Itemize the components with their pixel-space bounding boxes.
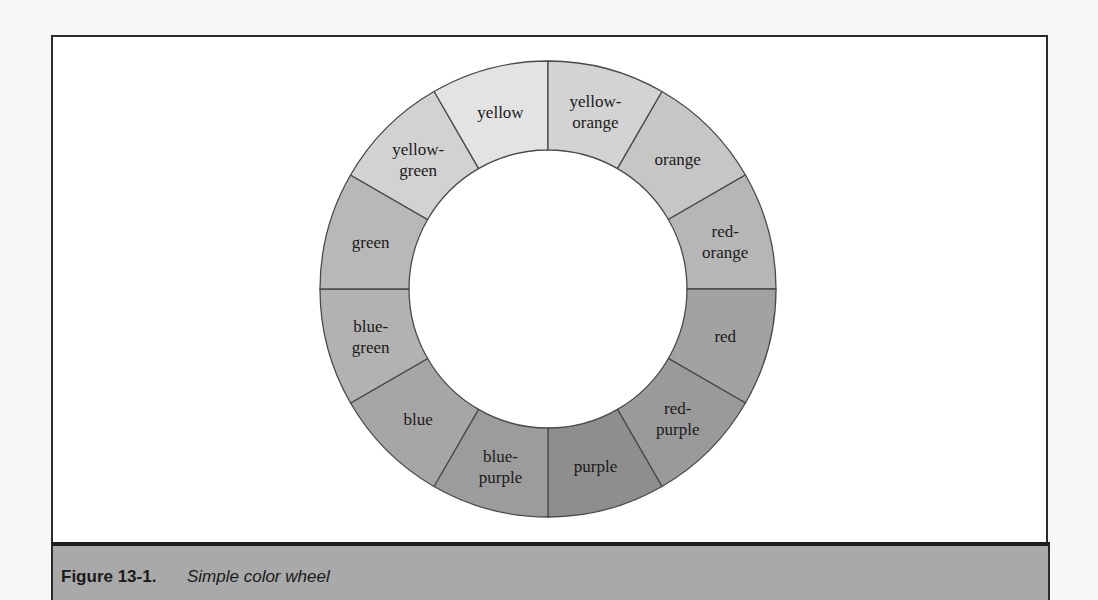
segment-label: green [399, 161, 437, 180]
segment-label: yellow- [570, 92, 622, 111]
segment-label: yellow [477, 103, 524, 122]
segment-label: purple [574, 457, 617, 476]
color-wheel: yellowyellow-orangeorangered-orangeredre… [0, 0, 1098, 600]
segment-label: purple [479, 468, 522, 487]
segment-label: orange [655, 150, 701, 169]
segment-label: red- [712, 222, 740, 241]
segment-label: green [352, 338, 390, 357]
segment-label: red- [664, 399, 692, 418]
figure-caption: Figure 13-1. Simple color wheel [51, 542, 1050, 600]
figure-title: Simple color wheel [187, 567, 330, 587]
figure-number: Figure 13-1. [61, 567, 156, 587]
segment-label: yellow- [392, 140, 444, 159]
segment-label: blue- [353, 317, 388, 336]
segment-label: orange [572, 113, 618, 132]
segment-label: red [714, 327, 736, 346]
segment-label: blue [404, 410, 433, 429]
segment-label: blue- [483, 447, 518, 466]
segment-label: green [352, 233, 390, 252]
segment-label: purple [656, 420, 699, 439]
segment-label: orange [702, 243, 748, 262]
